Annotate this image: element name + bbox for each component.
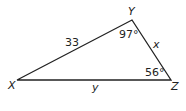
angle-label-z: 56° bbox=[145, 66, 165, 79]
vertex-label-z: Z bbox=[170, 80, 179, 93]
vertex-label-y: Y bbox=[128, 5, 136, 18]
side-label-yz: x bbox=[152, 38, 160, 51]
triangle-diagram: Y X Z 33 x y 97° 56° bbox=[0, 0, 186, 111]
side-label-xz: y bbox=[91, 81, 99, 94]
angle-label-y: 97° bbox=[119, 28, 139, 41]
vertex-label-x: X bbox=[7, 79, 16, 92]
side-label-xy: 33 bbox=[65, 36, 79, 49]
